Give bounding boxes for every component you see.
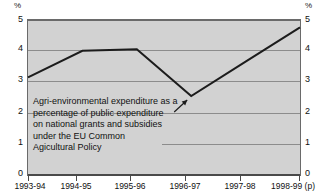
annotation-arrow xyxy=(174,100,187,112)
chart-screenshot: % % 5 4 3 2 1 0 5 4 3 2 1 0 1993-94 1994… xyxy=(0,0,327,195)
chart-vector-layer xyxy=(0,0,327,195)
data-series-line xyxy=(28,27,300,96)
